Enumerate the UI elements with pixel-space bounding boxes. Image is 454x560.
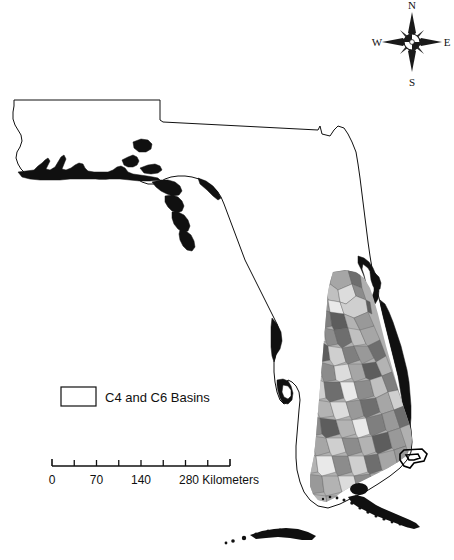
scale-label-140: 140 bbox=[131, 473, 151, 487]
map-canvas: N S E W C4 and C6 Basins 0 70 140 bbox=[0, 0, 454, 560]
legend-label-c4-c6: C4 and C6 Basins bbox=[105, 390, 210, 405]
scale-bar: 0 70 140 280 Kilometers bbox=[49, 459, 259, 487]
legend-swatch-c4-c6 bbox=[61, 387, 96, 406]
compass-south-label: S bbox=[409, 76, 415, 88]
compass-rose: N S E W bbox=[372, 0, 451, 88]
compass-north-label: N bbox=[408, 0, 416, 11]
scale-label-280-kilometers: 280 Kilometers bbox=[179, 473, 259, 487]
legend: C4 and C6 Basins bbox=[61, 387, 210, 406]
scale-label-70: 70 bbox=[90, 473, 104, 487]
compass-west-label: W bbox=[372, 36, 383, 48]
map-figure: N S E W C4 and C6 Basins 0 70 140 bbox=[0, 0, 454, 560]
scale-label-0: 0 bbox=[49, 473, 56, 487]
compass-east-label: E bbox=[444, 36, 451, 48]
